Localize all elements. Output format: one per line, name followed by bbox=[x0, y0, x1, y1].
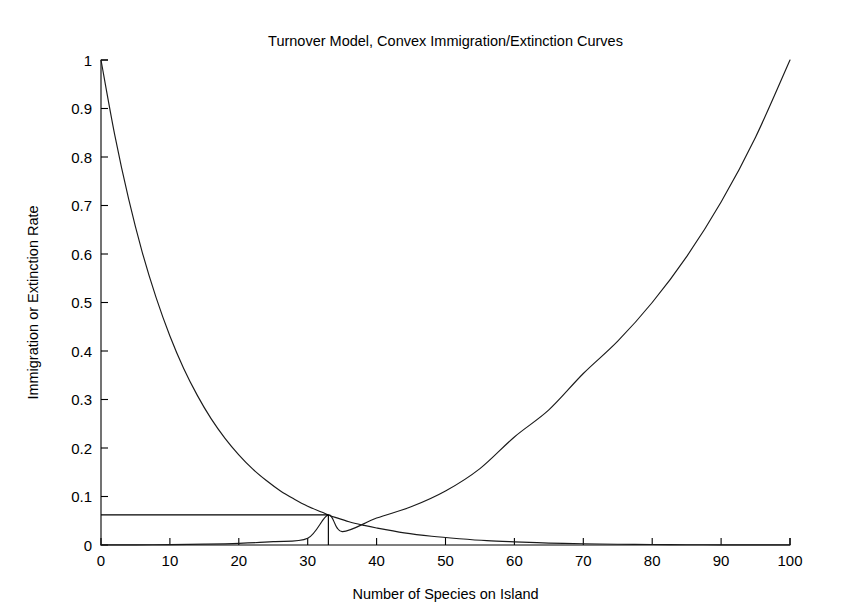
y-tick-group: 00.10.20.30.40.50.60.70.80.91 bbox=[71, 52, 108, 554]
chart-figure: Turnover Model, Convex Immigration/Extin… bbox=[0, 0, 847, 610]
x-tick-label: 50 bbox=[437, 552, 454, 569]
y-axis-label: Immigration or Extinction Rate bbox=[25, 205, 41, 399]
immigration-rate-curve bbox=[101, 60, 790, 545]
y-tick-label: 0 bbox=[84, 537, 92, 554]
y-tick-label: 0.8 bbox=[71, 149, 92, 166]
x-tick-label: 40 bbox=[368, 552, 385, 569]
y-tick-label: 0.9 bbox=[71, 100, 92, 117]
y-tick-label: 0.5 bbox=[71, 294, 92, 311]
axis-frame bbox=[101, 60, 790, 545]
axis-lines bbox=[101, 60, 790, 545]
y-tick-label: 0.6 bbox=[71, 246, 92, 263]
x-tick-label: 70 bbox=[575, 552, 592, 569]
x-tick-label: 10 bbox=[162, 552, 179, 569]
y-tick-label: 1 bbox=[84, 52, 92, 69]
x-tick-label: 60 bbox=[506, 552, 523, 569]
y-tick-label: 0.1 bbox=[71, 488, 92, 505]
chart-title: Turnover Model, Convex Immigration/Extin… bbox=[268, 33, 623, 49]
x-tick-label: 20 bbox=[230, 552, 247, 569]
y-tick-label: 0.2 bbox=[71, 440, 92, 457]
x-axis-label: Number of Species on Island bbox=[352, 586, 538, 602]
x-tick-label: 100 bbox=[777, 552, 802, 569]
x-tick-group: 0102030405060708090100 bbox=[97, 538, 803, 569]
turnover-model-plot: Turnover Model, Convex Immigration/Extin… bbox=[0, 0, 847, 610]
x-tick-label: 0 bbox=[97, 552, 105, 569]
x-tick-label: 30 bbox=[299, 552, 316, 569]
y-tick-label: 0.4 bbox=[71, 343, 92, 360]
y-tick-label: 0.3 bbox=[71, 391, 92, 408]
y-tick-label: 0.7 bbox=[71, 197, 92, 214]
x-tick-label: 80 bbox=[644, 552, 661, 569]
extinction-rate-curve bbox=[101, 60, 790, 545]
x-tick-label: 90 bbox=[713, 552, 730, 569]
